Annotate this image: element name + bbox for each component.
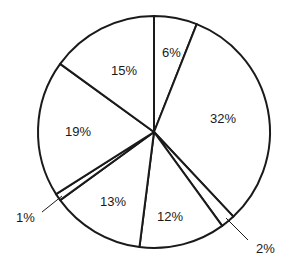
slice-label-15: 15% xyxy=(111,63,137,78)
leader-line-1pct xyxy=(42,196,62,212)
slice-label-1: 1% xyxy=(16,210,35,225)
slice-label-6: 6% xyxy=(162,45,181,60)
leader-line-2pct xyxy=(226,218,248,240)
slice-label-13: 13% xyxy=(100,194,126,209)
slice-label-12: 12% xyxy=(157,209,183,224)
slice-label-19: 19% xyxy=(65,124,91,139)
pie-chart: 6% 32% 2% 12% 13% 1% 19% 15% xyxy=(0,0,290,266)
slice-label-2: 2% xyxy=(256,241,275,256)
slice-label-32: 32% xyxy=(210,111,236,126)
